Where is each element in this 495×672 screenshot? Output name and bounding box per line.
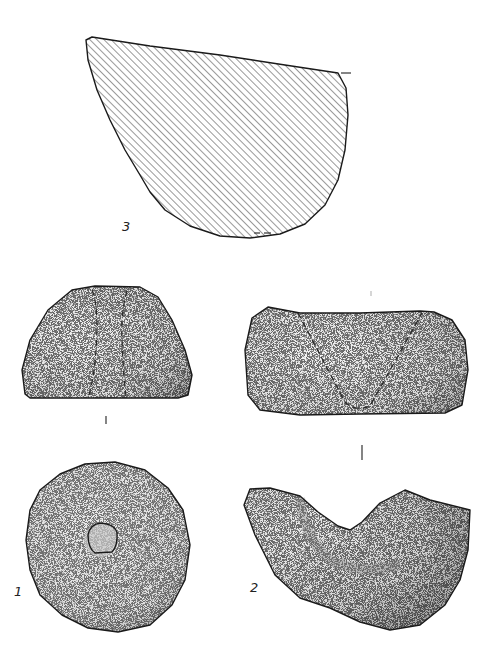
figure-1-disc-top-view (26, 462, 190, 632)
figure-label-2: 2 (250, 581, 258, 594)
figure-1-side-view (22, 286, 192, 424)
figure-2-saddle-top-view (244, 488, 470, 630)
artifact-plate (0, 0, 495, 672)
figure-2-side-view (245, 291, 468, 460)
figure-label-1: 1 (14, 585, 22, 598)
figure-3-section (86, 37, 351, 238)
figure-label-3: 3 (122, 220, 130, 233)
